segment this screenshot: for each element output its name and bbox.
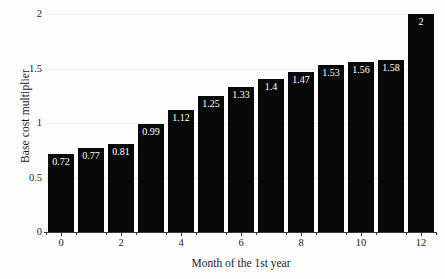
bar-value-label: 2 [408,16,434,28]
bar-value-label: 1.53 [318,67,344,79]
x-tick-mark [241,232,242,236]
bar[interactable]: 1.47 [288,72,314,232]
x-tick-mark [61,232,62,236]
x-axis-tick-labels: 024681012 [46,232,436,258]
x-tick-label: 4 [168,237,194,249]
x-tick-mark-minor [166,232,167,235]
x-tick-mark-minor [406,232,407,235]
x-tick-mark [361,232,362,236]
bar-value-label: 0.99 [138,126,164,138]
y-tick-label: 2 [4,9,42,19]
bar[interactable]: 1.56 [348,62,374,232]
bar-value-label: 0.81 [108,146,134,158]
bar-value-label: 1.56 [348,64,374,76]
x-tick-mark-minor [76,232,77,235]
bar-value-label: 0.72 [48,156,74,168]
bars-layer: 0.720.770.810.991.121.251.331.41.471.531… [46,14,436,232]
x-tick-label: 10 [348,237,374,249]
bar[interactable]: 1.58 [378,60,404,232]
y-tick-label: 0 [4,227,42,237]
x-tick-mark-minor [226,232,227,235]
x-tick-mark-minor [286,232,287,235]
bar-value-label: 1.12 [168,112,194,124]
x-tick-mark-minor [106,232,107,235]
bar[interactable]: 0.99 [138,124,164,232]
x-tick-mark [301,232,302,236]
x-tick-label: 8 [288,237,314,249]
bar[interactable]: 0.72 [48,154,74,232]
x-tick-mark-minor [256,232,257,235]
x-tick-mark-minor [436,232,437,235]
bar-value-label: 1.33 [228,89,254,101]
x-tick-mark-minor [196,232,197,235]
bar[interactable]: 2 [408,14,434,232]
x-tick-mark [421,232,422,236]
y-tick-label: 1.5 [4,64,42,74]
x-tick-label: 12 [408,237,434,249]
y-tick-label: 0.5 [4,173,42,183]
bar-value-label: 1.47 [288,74,314,86]
bar[interactable]: 1.33 [228,87,254,232]
bar-value-label: 1.25 [198,98,224,110]
x-tick-mark-minor [136,232,137,235]
x-tick-mark-minor [316,232,317,235]
bar-value-label: 0.77 [78,150,104,162]
x-tick-mark-minor [346,232,347,235]
y-axis-tick-labels: 00.511.52 [0,0,42,279]
bar[interactable]: 1.12 [168,110,194,232]
x-tick-label: 2 [108,237,134,249]
x-tick-mark-minor [376,232,377,235]
x-axis-title: Month of the 1st year [46,256,436,270]
plot-area: 0.720.770.810.991.121.251.331.41.471.531… [46,14,436,232]
x-tick-label: 6 [228,237,254,249]
x-tick-mark [121,232,122,236]
bar-chart: Base cost multiplier 00.511.52 0.720.770… [0,0,445,279]
x-tick-mark-minor [46,232,47,235]
bar-value-label: 1.58 [378,62,404,74]
bar[interactable]: 0.77 [78,148,104,232]
bar[interactable]: 1.4 [258,79,284,232]
bar-value-label: 1.4 [258,81,284,93]
bar[interactable]: 1.25 [198,96,224,232]
y-tick-label: 1 [4,118,42,128]
x-tick-label: 0 [48,237,74,249]
x-tick-mark [181,232,182,236]
bar[interactable]: 0.81 [108,144,134,232]
bar[interactable]: 1.53 [318,65,344,232]
